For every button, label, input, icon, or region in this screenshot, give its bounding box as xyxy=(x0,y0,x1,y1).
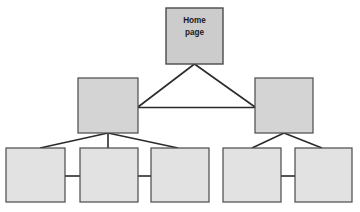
connector-section-left-to-page-3 xyxy=(108,133,178,148)
node-page-2[interactable] xyxy=(80,148,138,202)
connector-home-to-section-left xyxy=(138,64,195,107)
node-section-left-box[interactable] xyxy=(78,78,138,133)
connector-section-right-to-page-4 xyxy=(252,133,284,148)
node-home[interactable]: Home page xyxy=(166,8,223,64)
node-page-4-box[interactable] xyxy=(223,148,281,202)
node-page-5-box[interactable] xyxy=(295,148,352,202)
node-page-5[interactable] xyxy=(295,148,352,202)
node-section-right-box[interactable] xyxy=(255,78,313,133)
connector-section-left-to-page-1 xyxy=(40,133,108,148)
sitemap-diagram: Home page xyxy=(0,0,360,212)
node-section-right[interactable] xyxy=(255,78,313,133)
node-page-4[interactable] xyxy=(223,148,281,202)
connector-section-right-to-page-5 xyxy=(284,133,322,148)
connector-home-to-section-right xyxy=(195,64,256,107)
node-home-label-line1: Home xyxy=(183,16,206,25)
sitemap-canvas: Home page xyxy=(0,0,360,212)
node-section-left[interactable] xyxy=(78,78,138,133)
node-page-3[interactable] xyxy=(151,148,209,202)
node-page-3-box[interactable] xyxy=(151,148,209,202)
node-page-2-box[interactable] xyxy=(80,148,138,202)
node-home-label-line2: page xyxy=(185,28,205,37)
node-page-1[interactable] xyxy=(6,148,65,202)
node-page-1-box[interactable] xyxy=(6,148,65,202)
